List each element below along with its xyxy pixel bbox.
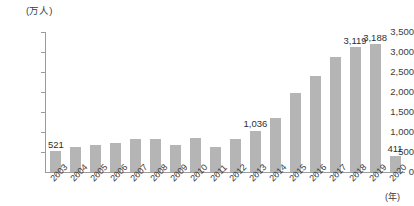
y-axis-tick-mark: [41, 112, 45, 113]
bar-slot[interactable]: [186, 32, 206, 172]
bar-slot[interactable]: [305, 32, 325, 172]
bar-slot[interactable]: [106, 32, 126, 172]
bar[interactable]: [370, 44, 381, 172]
bar-slot[interactable]: 521: [46, 32, 66, 172]
bar-slot[interactable]: [285, 32, 305, 172]
bar-slot[interactable]: 1,036: [245, 32, 265, 172]
bar[interactable]: [310, 76, 321, 172]
bar[interactable]: [290, 93, 301, 172]
bar-chart: (万人) 05001,0001,5002,0002,5003,0003,500 …: [0, 0, 414, 206]
y-axis-tick-mark: [41, 152, 45, 153]
y-axis-tick-mark: [41, 52, 45, 53]
bar-slot[interactable]: [146, 32, 166, 172]
bar-slot[interactable]: [325, 32, 345, 172]
bar-slot[interactable]: [86, 32, 106, 172]
bar-slot[interactable]: [126, 32, 146, 172]
bar-slot[interactable]: [265, 32, 285, 172]
bar-value-label: 3,188: [363, 33, 387, 43]
y-axis-tick-mark: [41, 72, 45, 73]
plot-area: 5211,0363,1193,188411: [46, 32, 405, 172]
x-axis-unit-label: (年): [385, 190, 400, 203]
bar-slot[interactable]: 3,119: [345, 32, 365, 172]
bar-slot[interactable]: [166, 32, 186, 172]
y-axis-tick-mark: [41, 92, 45, 93]
bar[interactable]: [350, 47, 361, 172]
bar-slot[interactable]: [66, 32, 86, 172]
y-axis-tick-mark: [41, 132, 45, 133]
bar-value-label: 1,036: [244, 119, 268, 129]
bar-value-label: 521: [48, 140, 64, 150]
y-axis-tick-mark: [41, 32, 45, 33]
y-axis-unit-label: (万人): [26, 3, 52, 17]
bar-slot[interactable]: [226, 32, 246, 172]
bar-value-label: 411: [387, 144, 402, 154]
bar[interactable]: [330, 57, 341, 172]
bar-slot[interactable]: [206, 32, 226, 172]
bar-slot[interactable]: 411: [385, 32, 405, 172]
bar-slot[interactable]: 3,188: [365, 32, 385, 172]
